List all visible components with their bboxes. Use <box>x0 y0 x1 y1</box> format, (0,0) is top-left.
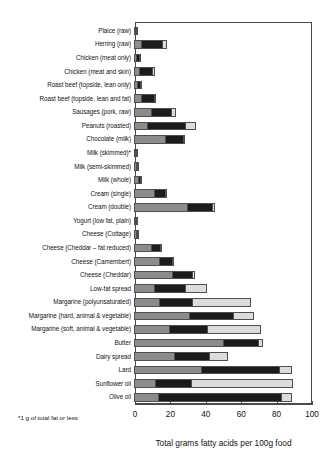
bar-rows-container: Plaice (raw)Herring (raw)Chicken (meat o… <box>0 24 328 404</box>
stacked-bar <box>134 108 176 117</box>
bar-segment-monounsaturated <box>159 298 193 307</box>
bar-segment-monounsaturated <box>141 40 162 49</box>
bar-row: Cheese (Cheddar – fat reduced) <box>0 241 328 255</box>
bar-segment-polyunsaturated <box>136 27 138 36</box>
bar-segment-saturated <box>134 94 141 103</box>
category-label: Lard <box>0 366 134 374</box>
bar-segment-saturated <box>134 366 201 375</box>
category-label: Chicken (meat and skin) <box>0 68 134 76</box>
stacked-bar <box>134 339 263 348</box>
bar-segment-polyunsaturated <box>233 312 254 321</box>
stacked-bar <box>134 271 195 280</box>
bar-segment-polyunsaturated <box>152 67 156 76</box>
bar-row: Yogurt (low fat, plain) <box>0 214 328 228</box>
category-label: Roast beef (topside, lean only) <box>0 81 134 89</box>
category-label: Chicken (meat only) <box>0 54 134 62</box>
stacked-bar <box>134 244 162 253</box>
category-label: Peanuts (roasted) <box>0 122 134 130</box>
bar-segment-saturated <box>134 312 189 321</box>
bar-segment-saturated <box>134 189 154 198</box>
bar-row: Margarine (hard, animal & vegetable) <box>0 309 328 323</box>
bar-row: Chicken (meat and skin) <box>0 65 328 79</box>
stacked-bar <box>134 352 228 361</box>
bar-segment-monounsaturated <box>154 284 185 293</box>
bar-segment-saturated <box>134 379 155 388</box>
bar-segment-polyunsaturated <box>258 339 263 348</box>
bar-segment-polyunsaturated <box>136 149 138 158</box>
bar-segment-saturated <box>134 135 165 144</box>
bar-segment-polyunsaturated <box>172 257 174 266</box>
x-axis-tick-label: 20 <box>166 410 175 419</box>
bar-row: Cheese (Cheddar) <box>0 268 328 282</box>
bar-row: Butter <box>0 336 328 350</box>
bar-row: Chicken (meat only) <box>0 51 328 65</box>
bar-row: Cream (double) <box>0 200 328 214</box>
bar-segment-saturated <box>134 339 223 348</box>
bar-segment-polyunsaturated <box>212 203 215 212</box>
bar-segment-polyunsaturated <box>136 217 138 226</box>
category-label: Margarine (polyunsaturated) <box>0 298 134 306</box>
bar-row: Milk (skimmed)* <box>0 146 328 160</box>
bar-segment-polyunsaturated <box>185 284 207 293</box>
bar-segment-polyunsaturated <box>281 393 292 402</box>
bar-segment-saturated <box>134 352 174 361</box>
chart-figure: Plaice (raw)Herring (raw)Chicken (meat o… <box>0 0 328 472</box>
x-axis-tick-label: 80 <box>272 410 281 419</box>
category-label: Low-fat spread <box>0 285 134 293</box>
category-label: Margarine (hard, animal & vegetable) <box>0 312 134 320</box>
category-label: Milk (skimmed)* <box>0 149 134 157</box>
category-label: Dairy spread <box>0 353 134 361</box>
bar-segment-polyunsaturated <box>154 94 156 103</box>
category-label: Milk (semi-skimmed) <box>0 163 134 171</box>
bar-segment-monounsaturated <box>147 122 185 131</box>
bar-segment-monounsaturated <box>187 203 212 212</box>
bar-segment-polyunsaturated <box>140 176 142 185</box>
stacked-bar <box>134 230 139 239</box>
stacked-bar <box>134 40 167 49</box>
bar-segment-monounsaturated <box>172 271 192 280</box>
x-axis-tick-label: 60 <box>237 410 246 419</box>
x-axis-tick <box>170 401 171 405</box>
bar-segment-polyunsaturated <box>209 352 228 361</box>
bar-segment-saturated <box>134 298 159 307</box>
bar-segment-saturated <box>134 203 187 212</box>
category-label: Sunflower oil <box>0 380 134 388</box>
bar-row: Milk (semi-skimmed) <box>0 160 328 174</box>
x-axis: 020406080100 <box>135 404 312 406</box>
bar-row: Sausages (pork, raw) <box>0 105 328 119</box>
stacked-bar <box>134 298 251 307</box>
category-label: Herring (raw) <box>0 40 134 48</box>
bar-segment-monounsaturated <box>159 257 172 266</box>
bar-row: Roast beef (topside, lean and fat) <box>0 92 328 106</box>
stacked-bar <box>134 217 138 226</box>
stacked-bar <box>134 203 215 212</box>
category-label: Yogurt (low fat, plain) <box>0 217 134 225</box>
bar-segment-monounsaturated <box>151 108 171 117</box>
chart-footnote: *1 g of total fat or less <box>18 414 78 421</box>
category-label: Cream (single) <box>0 190 134 198</box>
bar-row: Margarine (soft, animal & vegetable) <box>0 323 328 337</box>
bar-segment-monounsaturated <box>151 244 160 253</box>
bar-row: Plaice (raw) <box>0 24 328 38</box>
stacked-bar <box>134 379 293 388</box>
bar-segment-monounsaturated <box>141 94 154 103</box>
stacked-bar <box>134 81 142 90</box>
bar-segment-saturated <box>134 284 154 293</box>
bar-segment-polyunsaturated <box>279 366 291 375</box>
stacked-bar <box>134 284 207 293</box>
stacked-bar <box>134 393 292 402</box>
bar-row: Lard <box>0 363 328 377</box>
x-axis-tick <box>135 401 136 405</box>
bar-row: Cheese (Cottage) <box>0 228 328 242</box>
bar-row: Roast beef (topside, lean only) <box>0 78 328 92</box>
x-axis-tick <box>206 401 207 405</box>
stacked-bar <box>134 162 139 171</box>
bar-segment-saturated <box>134 393 158 402</box>
bar-row: Margarine (polyunsaturated) <box>0 295 328 309</box>
stacked-bar <box>134 67 155 76</box>
bar-segment-saturated <box>134 325 169 334</box>
bar-segment-polyunsaturated <box>137 230 139 239</box>
category-label: Roast beef (topside, lean and fat) <box>0 95 134 103</box>
x-axis-tick-label: 0 <box>133 410 138 419</box>
x-axis-tick <box>312 401 313 405</box>
